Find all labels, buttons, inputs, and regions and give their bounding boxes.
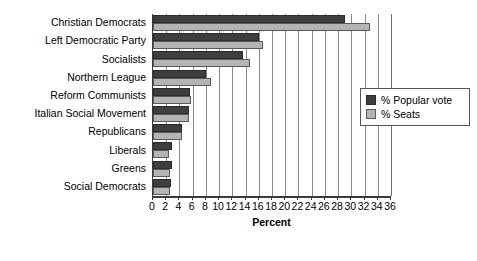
bar-popular-vote: [153, 15, 345, 23]
x-tick-label-4: 4: [176, 200, 182, 213]
bar-popular-vote: [153, 179, 171, 187]
x-tick-label-30: 30: [344, 200, 356, 213]
x-tick-label-32: 32: [358, 200, 370, 213]
category-label: Reform Communists: [0, 90, 146, 101]
category-label: Socialists: [0, 54, 146, 65]
legend-item-seats: % Seats: [366, 107, 464, 121]
x-tick-label-18: 18: [265, 200, 277, 213]
legend-swatch-icon-popular-vote: [366, 95, 376, 105]
bar-group: [153, 15, 391, 33]
bar-popular-vote: [153, 124, 182, 132]
x-tick-label-10: 10: [212, 200, 224, 213]
bar-seats: [153, 169, 170, 177]
x-tick-label-16: 16: [252, 200, 264, 213]
bar-seats: [153, 41, 263, 49]
category-label: Northern League: [0, 72, 146, 83]
category-label: Social Democrats: [0, 181, 146, 192]
bar-popular-vote: [153, 142, 172, 150]
bar-group: [153, 161, 391, 179]
bar-seats: [153, 23, 370, 31]
category-label: Republicans: [0, 126, 146, 137]
x-tick-label-12: 12: [225, 200, 237, 213]
x-tick-label-34: 34: [371, 200, 383, 213]
x-tick-label-14: 14: [239, 200, 251, 213]
chart-legend: % Popular vote % Seats: [360, 88, 470, 126]
bar-group: [153, 70, 391, 88]
x-tick-label-24: 24: [305, 200, 317, 213]
bar-seats: [153, 187, 170, 195]
bar-group: [153, 106, 391, 124]
bar-seats: [153, 96, 191, 104]
bar-seats: [153, 150, 169, 158]
bar-seats: [153, 78, 211, 86]
bar-popular-vote: [153, 51, 243, 59]
bar-seats: [153, 59, 250, 67]
bar-series-container: [153, 14, 391, 196]
bar-popular-vote: [153, 88, 190, 96]
x-tick-label-20: 20: [278, 200, 290, 213]
category-label: Left Democratic Party: [0, 35, 146, 46]
bar-seats: [153, 114, 189, 122]
x-tick-label-26: 26: [318, 200, 330, 213]
category-label: Christian Democrats: [0, 17, 146, 28]
bar-chart: Christian DemocratsLeft Democratic Party…: [0, 0, 477, 261]
x-tick-label-22: 22: [292, 200, 304, 213]
bar-group: [153, 124, 391, 142]
category-label: Italian Social Movement: [0, 108, 146, 119]
bar-popular-vote: [153, 70, 206, 78]
bar-group: [153, 88, 391, 106]
bar-group: [153, 142, 391, 160]
bar-group: [153, 51, 391, 69]
x-tick-label-2: 2: [162, 200, 168, 213]
x-tick-label-36: 36: [384, 200, 396, 213]
legend-item-popular-vote: % Popular vote: [366, 93, 464, 107]
plot-area: [152, 14, 391, 196]
x-tick-label-8: 8: [202, 200, 208, 213]
bar-group: [153, 179, 391, 197]
x-tick-label-6: 6: [189, 200, 195, 213]
bar-group: [153, 33, 391, 51]
category-axis: Christian DemocratsLeft Democratic Party…: [0, 14, 150, 196]
x-axis-tick-labels: 024681012141618202224262830323436: [152, 200, 391, 214]
bar-seats: [153, 132, 182, 140]
x-tick-label-0: 0: [149, 200, 155, 213]
legend-label-popular-vote: % Popular vote: [381, 94, 452, 106]
x-axis-title: Percent: [152, 216, 391, 228]
bar-popular-vote: [153, 106, 189, 114]
legend-label-seats: % Seats: [381, 108, 420, 120]
category-label: Greens: [0, 163, 146, 174]
bar-popular-vote: [153, 33, 259, 41]
legend-swatch-icon-seats: [366, 109, 376, 119]
x-tick-label-28: 28: [331, 200, 343, 213]
category-label: Liberals: [0, 145, 146, 156]
bar-popular-vote: [153, 161, 172, 169]
